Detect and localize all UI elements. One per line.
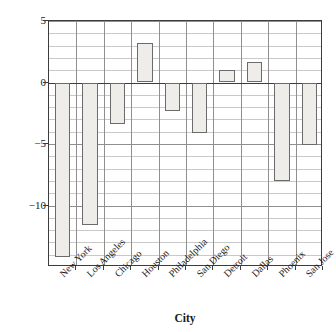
gridline-vertical [241,21,242,265]
y-axis-tick-labels: 50−5−10 [18,0,46,332]
bar [165,83,180,111]
gridline-horizontal [49,46,321,47]
bar [192,83,207,133]
bar [82,83,97,226]
y-axis-tick-mark [43,205,48,206]
y-axis-tick-mark [43,82,48,83]
gridline-horizontal [49,33,321,34]
bar [247,62,262,83]
gridline-vertical [131,21,132,265]
y-axis-title: Change in crime rate (in percent) [0,0,18,38]
gridline-vertical [159,21,160,265]
gridline-horizontal [49,21,321,22]
gridline-vertical [104,21,105,265]
x-axis-title: City [48,312,322,324]
y-axis-tick-mark [43,20,48,21]
bar [274,83,289,181]
plot-area [48,20,322,266]
bar [137,43,152,82]
gridline-vertical [76,21,77,265]
bar [219,70,234,82]
gridline-horizontal [49,230,321,231]
gridline-horizontal [49,70,321,71]
gridline-horizontal [49,58,321,59]
gridline-vertical [213,21,214,265]
bar [302,83,317,146]
y-axis-tick-mark [43,143,48,144]
gridline-vertical [186,21,187,265]
bar [55,83,70,258]
gridline-vertical [268,21,269,265]
gridline-horizontal [49,242,321,243]
gridline-vertical [296,21,297,265]
bar [110,83,125,125]
